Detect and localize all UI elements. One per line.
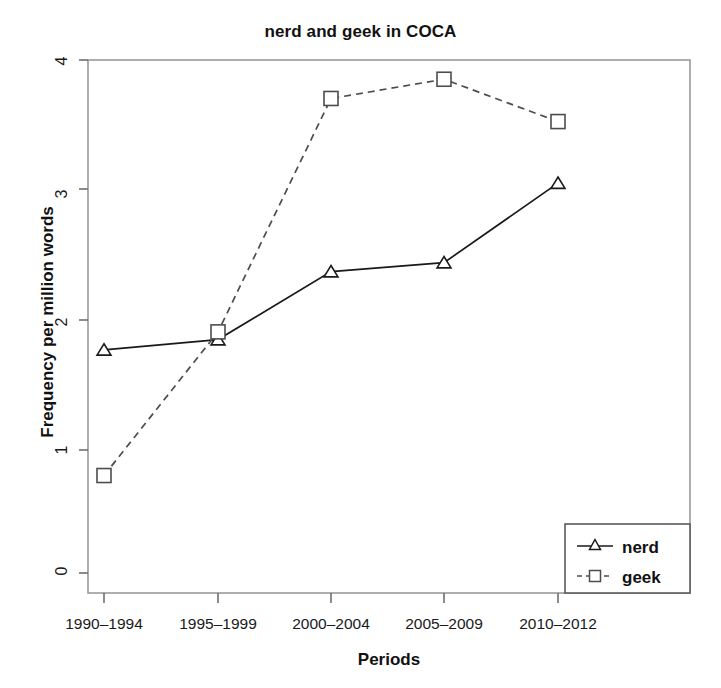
chart-figure: nerd and geek in COCA Frequency per mill…: [0, 0, 721, 688]
legend-label-geek: geek: [622, 568, 661, 587]
square-marker: [211, 325, 225, 339]
square-marker: [437, 72, 451, 86]
series-nerd: [97, 177, 565, 355]
square-marker: [551, 115, 565, 129]
legend-label-nerd: nerd: [622, 538, 659, 557]
plot-area: nerd geek: [0, 0, 721, 688]
x-axis-ticks: [104, 593, 558, 603]
square-marker-icon: [590, 571, 601, 582]
square-marker: [324, 91, 338, 105]
triangle-marker: [551, 177, 565, 188]
series-layer: [97, 72, 565, 482]
square-marker: [97, 469, 111, 483]
y-axis-ticks: [79, 60, 88, 573]
legend: nerd geek: [565, 524, 690, 593]
plot-frame: [88, 60, 690, 593]
